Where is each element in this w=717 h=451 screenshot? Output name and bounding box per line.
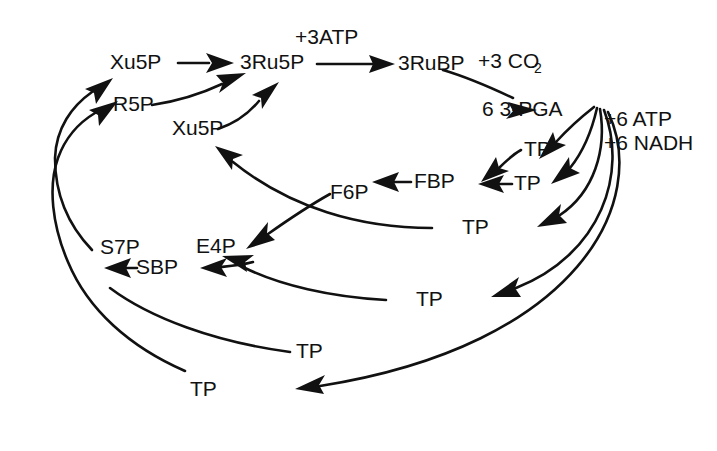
label-e4p: E4P [196, 234, 236, 257]
arrow-fbp-to-f6p [372, 172, 411, 192]
label-pga: 6 3-PGA [482, 97, 563, 120]
label-xu5p-top: Xu5P [110, 50, 161, 73]
label-s7p: S7P [100, 235, 140, 258]
arrow-f6p-to-e4p [246, 194, 330, 249]
label-r5p: R5P [113, 92, 154, 115]
arrow-r5p-to-ru5p [152, 73, 246, 105]
label-tp-2: TP [514, 171, 541, 194]
label-atp-6: +6 ATP [604, 107, 672, 130]
arrow-ru5p-to-rubp [317, 55, 395, 73]
label-xu5p-lower: Xu5P [172, 116, 223, 139]
label-atp-3: +3ATP [295, 25, 358, 48]
label-tp-5: TP [296, 339, 323, 362]
label-rubp: 3RuBP [398, 51, 465, 74]
label-co2-subscript: 2 [534, 60, 542, 76]
arrow-inner-return-curve [110, 288, 290, 352]
calvin-cycle-diagram: Xu5P 3Ru5P 3RuBP +3ATP +3 CO 2 R5P 6 3-P… [0, 0, 717, 451]
label-fbp: FBP [414, 169, 455, 192]
label-f6p: F6P [330, 180, 369, 203]
label-co2: +3 CO [478, 49, 539, 72]
arrow-s7p-to-xu5p-top [55, 78, 113, 250]
label-ru5p: 3Ru5P [240, 50, 304, 73]
label-tp-1: TP [524, 137, 551, 160]
label-tp-3: TP [462, 215, 489, 238]
label-nadh-6: +6 NADH [604, 131, 693, 154]
label-tp-4: TP [416, 287, 443, 310]
label-sbp: SBP [136, 255, 178, 278]
label-co2-group: +3 CO 2 [478, 49, 542, 76]
arrow-xu5p-top-to-ru5p [178, 53, 234, 73]
pathway-svg: Xu5P 3Ru5P 3RuBP +3ATP +3 CO 2 R5P 6 3-P… [0, 0, 717, 451]
arrow-tp3-to-xu5p-lower [215, 146, 432, 228]
label-tp-export: TP [190, 377, 217, 400]
arrow-xu5p-lower-to-ru5p [218, 82, 279, 129]
arrow-sbp-to-s7p [104, 258, 137, 278]
arrow-tp4-to-sbp [222, 255, 386, 300]
